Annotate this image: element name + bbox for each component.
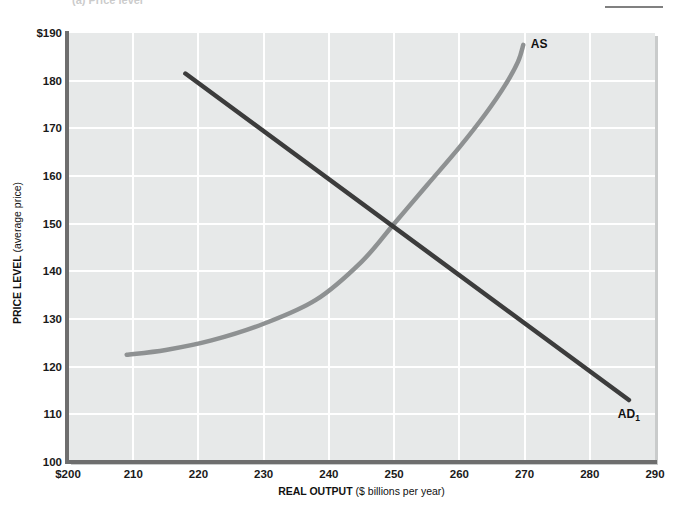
curve-layer [0,0,677,511]
ad1-curve-label: AD1 [618,407,640,423]
as-label-text: AS [531,37,548,51]
chart-figure: (a) Price level $19018017016015014013012… [0,0,677,511]
as-curve [127,45,524,355]
ad-label-subscript: 1 [635,413,640,423]
ad-label-text: AD [618,407,635,421]
as-curve-label: AS [531,37,548,51]
ad1-curve [185,74,629,401]
